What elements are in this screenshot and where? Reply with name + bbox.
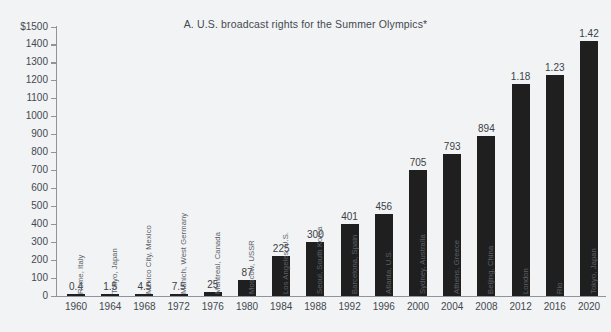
x-axis-year-label: 2020: [569, 301, 609, 312]
bar-group[interactable]: 25Montreal, Canada: [196, 27, 230, 296]
bar[interactable]: [135, 294, 153, 296]
bar[interactable]: [67, 294, 85, 296]
bar-group[interactable]: 705Sydney, Australia: [401, 27, 435, 296]
bar-group[interactable]: 894Beijing, China: [469, 27, 503, 296]
bar-value-label: 1.42: [566, 28, 611, 39]
bar[interactable]: [101, 294, 119, 296]
bar-city-label: Los Angeles, U.S.: [281, 232, 290, 294]
bar-city-label: Beijing, China: [486, 246, 495, 294]
bar-city-label: Mexico City, Mexico: [144, 225, 153, 294]
bar-city-label: Montreal, Canada: [213, 232, 222, 294]
bar-value-label: 705: [395, 157, 441, 168]
bar-group[interactable]: 401Barcelona, Spain: [333, 27, 367, 296]
y-axis-label: 1300: [2, 56, 48, 67]
bar-city-label: Moscow, USSR: [247, 240, 256, 294]
y-axis-label: 100: [2, 272, 48, 283]
bar-group[interactable]: 4.5Mexico City, Mexico: [127, 27, 161, 296]
bar-group[interactable]: 300Seoul, South Korea: [298, 27, 332, 296]
bar-value-label: 894: [463, 123, 509, 134]
bar-group[interactable]: 0.4Rome, Italy: [59, 27, 93, 296]
bar-city-label: Rome, Italy: [76, 254, 85, 294]
y-axis-label: 900: [2, 128, 48, 139]
x-axis-line: [56, 296, 606, 297]
y-axis-label: 500: [2, 200, 48, 211]
y-axis-label: 1400: [2, 38, 48, 49]
plot-area: 0.4Rome, Italy1.5Tokyo, Japan4.5Mexico C…: [57, 27, 605, 296]
y-axis-label: 700: [2, 164, 48, 175]
y-axis-label: 1000: [2, 110, 48, 121]
bar-value-label: 793: [429, 141, 475, 152]
y-axis-label: 300: [2, 236, 48, 247]
y-axis-label: $1500: [2, 21, 48, 32]
y-axis-label: 400: [2, 218, 48, 229]
bar-group[interactable]: 793Athens, Greece: [435, 27, 469, 296]
bar-group[interactable]: 7.5Munich, West Germany: [162, 27, 196, 296]
y-axis-label: 1200: [2, 74, 48, 85]
bar-city-label: Barcelona, Spain: [350, 235, 359, 294]
y-axis-label: 600: [2, 182, 48, 193]
bar-group[interactable]: 1.42Tokyo, Japan: [572, 27, 606, 296]
bar-city-label: Rio: [555, 282, 564, 294]
bar-value-label: 401: [327, 211, 373, 222]
bar-group[interactable]: 1.5Tokyo, Japan: [93, 27, 127, 296]
bar-city-label: Munich, West Germany: [179, 213, 188, 294]
bar-value-label: 1.23: [532, 62, 578, 73]
y-axis-label: 200: [2, 254, 48, 265]
y-axis-label: 1100: [2, 92, 48, 103]
bar-city-label: Atlanta, U.S.: [384, 250, 393, 294]
chart-container: A. U.S. broadcast rights for the Summer …: [0, 0, 611, 332]
bar-city-label: Seoul, South Korea: [315, 226, 324, 294]
bar[interactable]: [170, 294, 188, 296]
bar[interactable]: [546, 75, 564, 296]
bar[interactable]: [512, 84, 530, 296]
bar-group[interactable]: 225Los Angeles, U.S.: [264, 27, 298, 296]
y-axis-label: 0: [2, 290, 48, 301]
bar-value-label: 456: [361, 201, 407, 212]
bar-city-label: London: [521, 268, 530, 294]
bar-group[interactable]: 1.23Rio: [538, 27, 572, 296]
bar-city-label: Tokyo, Japan: [110, 248, 119, 294]
bar-city-label: Tokyo, Japan: [589, 248, 598, 294]
bar-city-label: Athens, Greece: [452, 240, 461, 294]
bar-group[interactable]: 87Moscow, USSR: [230, 27, 264, 296]
y-axis-label: 800: [2, 146, 48, 157]
bar-city-label: Sydney, Australia: [418, 234, 427, 294]
